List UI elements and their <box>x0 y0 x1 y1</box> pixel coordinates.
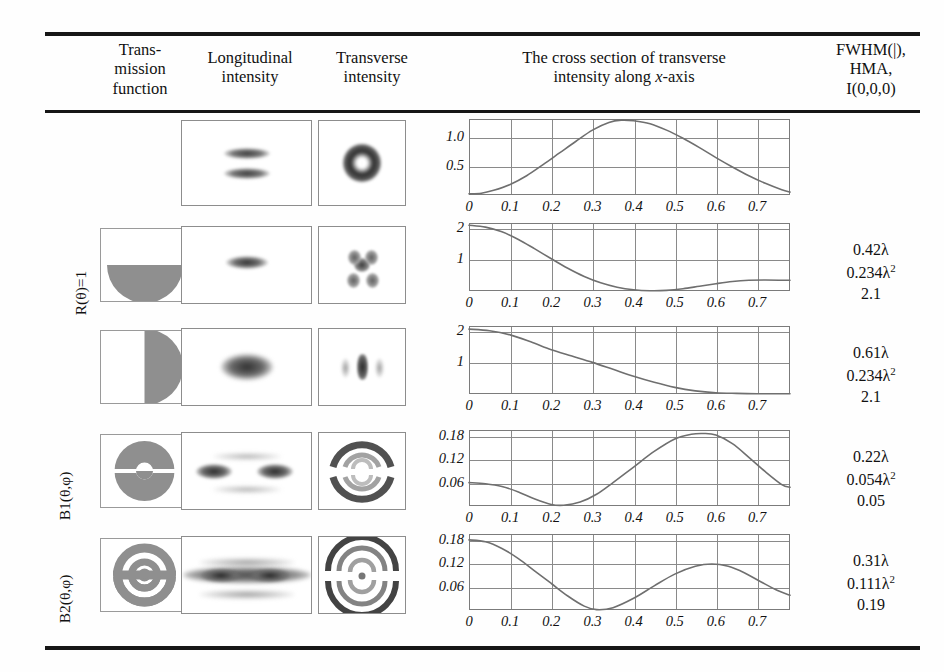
cross-section-chart-row-5: 0.060.120.1800.10.20.30.40.50.60.7 <box>469 534 790 610</box>
longitudinal-intensity-row-1 <box>181 120 312 206</box>
split-double-annulus-shape <box>101 539 188 611</box>
x-axis-tick-label: 0 <box>465 509 472 526</box>
column-header-longitudinal-intensity: Longitudinalintensity <box>188 48 312 87</box>
metric-hma: 0.234λ2 <box>808 364 934 387</box>
curve-layer <box>469 534 790 610</box>
y-axis-tick-label: 1 <box>457 251 464 268</box>
x-axis-tick-label: 0 <box>465 198 472 215</box>
longitudinal-intensity-row-3 <box>181 328 312 406</box>
x-axis-tick-label: 0 <box>465 397 472 414</box>
y-axis-tick-label: 0.06 <box>439 578 464 595</box>
data-curve <box>469 120 790 194</box>
x-axis-tick-label: 0.5 <box>666 509 684 526</box>
column-header-line: HMA, <box>808 59 934 78</box>
transverse-intensity-row-2 <box>318 226 406 304</box>
column-header-cross-section: The cross section of transverseintensity… <box>448 48 800 87</box>
y-axis-tick-label: 2 <box>457 219 464 236</box>
metric-hma: 0.111λ2 <box>808 572 934 595</box>
column-header-line: function <box>92 79 188 98</box>
metrics-row-2: 0.42λ0.234λ22.1 <box>808 240 934 305</box>
data-curve <box>469 225 790 291</box>
longitudinal-intensity-row-4 <box>181 432 312 510</box>
column-header-line: Longitudinal <box>188 48 312 67</box>
column-header-line: intensity <box>188 67 312 86</box>
x-axis-tick-label: 0.3 <box>583 294 601 311</box>
table-bottom-rule <box>45 646 920 650</box>
x-axis-tick-label: 0.7 <box>748 294 766 311</box>
x-axis-tick-label: 0.5 <box>666 198 684 215</box>
metrics-row-5: 0.31λ0.111λ20.19 <box>808 551 934 616</box>
x-axis-tick-label: 0.5 <box>666 397 684 414</box>
metric-fwhm: 0.22λ <box>808 447 934 468</box>
x-axis-tick-label: 0 <box>465 613 472 630</box>
metric-fwhm: 0.42λ <box>808 240 934 261</box>
x-axis-tick-label: 0.2 <box>542 509 560 526</box>
cross-section-chart-row-1: 0.51.000.10.20.30.40.50.60.7 <box>469 119 790 195</box>
metric-fwhm: 0.31λ <box>808 551 934 572</box>
x-axis-tick-label: 0.6 <box>707 294 725 311</box>
curve-layer <box>469 119 790 195</box>
transverse-intensity-row-4 <box>318 432 406 510</box>
x-axis-tick-label: 0.2 <box>542 198 560 215</box>
column-header-metrics: FWHM(|),HMA,I(0,0,0) <box>808 40 934 98</box>
column-header-transmission-function: Trans-missionfunction <box>92 40 188 98</box>
x-axis-tick-label: 0.3 <box>583 397 601 414</box>
x-axis-tick-label: 0 <box>465 294 472 311</box>
metric-fwhm: 0.61λ <box>808 343 934 364</box>
y-axis-tick-label: 0.5 <box>446 157 464 174</box>
x-axis-tick-label: 0.2 <box>542 397 560 414</box>
column-header-line: mission <box>92 59 188 78</box>
x-axis-tick-label: 0.7 <box>748 613 766 630</box>
transverse-intensity-row-3 <box>318 328 406 406</box>
y-axis-tick-label: 0.06 <box>439 474 464 491</box>
x-axis-tick-label: 0.2 <box>542 613 560 630</box>
metrics-row-3: 0.61λ0.234λ22.1 <box>808 343 934 408</box>
metric-hma: 0.234λ2 <box>808 261 934 284</box>
y-axis-tick-label: 2 <box>457 322 464 339</box>
cross-section-chart-row-2: 1200.10.20.30.40.50.60.7 <box>469 223 790 291</box>
x-axis-tick-label: 0.6 <box>707 509 725 526</box>
metric-i000: 2.1 <box>808 387 934 408</box>
x-axis-tick-label: 0.1 <box>501 397 519 414</box>
x-axis-tick-label: 0.1 <box>501 613 519 630</box>
x-axis-tick-label: 0.4 <box>625 613 643 630</box>
x-axis-tick-label: 0.1 <box>501 198 519 215</box>
bottom-semicircle-shape <box>107 228 183 302</box>
longitudinal-intensity-row-2 <box>181 226 312 304</box>
y-axis-tick-label: 0.12 <box>439 554 464 571</box>
row-label-b2: B2(θ,φ) <box>56 544 74 654</box>
column-header-line: I(0,0,0) <box>808 79 934 98</box>
column-header-line: The cross section of transverse <box>448 48 800 67</box>
curve-layer <box>469 326 790 394</box>
column-header-transverse-intensity: Transverseintensity <box>314 48 430 87</box>
cross-section-chart-row-4: 0.060.120.1800.10.20.30.40.50.60.7 <box>469 430 790 506</box>
split-annulus-shape <box>101 435 188 507</box>
curve-layer <box>469 223 790 291</box>
x-axis-tick-label: 0.3 <box>583 198 601 215</box>
x-axis-tick-label: 0.3 <box>583 509 601 526</box>
row-label-b1: B1(θ,φ) <box>56 441 74 551</box>
x-axis-tick-label: 0.1 <box>501 294 519 311</box>
y-axis-tick-label: 0.18 <box>439 427 464 444</box>
x-axis-tick-label: 0.7 <box>748 397 766 414</box>
data-curve <box>469 433 790 505</box>
right-semicircle-shape <box>107 330 183 404</box>
transmission-function-row-2 <box>100 228 189 302</box>
x-axis-tick-label: 0.7 <box>748 509 766 526</box>
x-axis-tick-label: 0.4 <box>625 509 643 526</box>
metric-i000: 2.1 <box>808 284 934 305</box>
x-axis-tick-label: 0.1 <box>501 509 519 526</box>
x-axis-tick-label: 0.6 <box>707 198 725 215</box>
x-axis-tick-label: 0.5 <box>666 294 684 311</box>
column-header-line: intensity <box>314 67 430 86</box>
data-curve <box>469 329 790 394</box>
y-axis-tick-label: 0.18 <box>439 531 464 548</box>
transmission-function-row-5 <box>100 538 189 612</box>
row-label-r-theta: R(θ)=1 <box>72 238 90 348</box>
x-axis-tick-label: 0.4 <box>625 397 643 414</box>
column-header-line: intensity along x-axis <box>448 67 800 86</box>
metrics-row-4: 0.22λ0.054λ20.05 <box>808 447 934 512</box>
x-axis-tick-label: 0.2 <box>542 294 560 311</box>
x-axis-tick-label: 0.4 <box>625 198 643 215</box>
table-header-rule <box>45 110 920 113</box>
